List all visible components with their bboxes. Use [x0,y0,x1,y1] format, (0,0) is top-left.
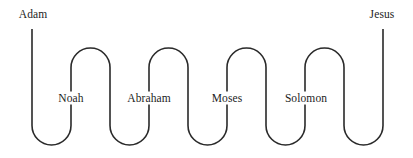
node-label-moses: Moses [209,92,246,105]
node-label-jesus: Jesus [367,8,398,21]
node-label-noah: Noah [55,92,86,105]
serpentine-path-graphic [0,0,413,158]
node-label-abraham: Abraham [124,92,174,105]
serpentine-line [32,29,383,145]
node-label-solomon: Solomon [282,92,330,105]
genealogy-serpentine-diagram: Adam Noah Abraham Moses Solomon Jesus [0,0,413,158]
node-label-adam: Adam [16,8,51,21]
